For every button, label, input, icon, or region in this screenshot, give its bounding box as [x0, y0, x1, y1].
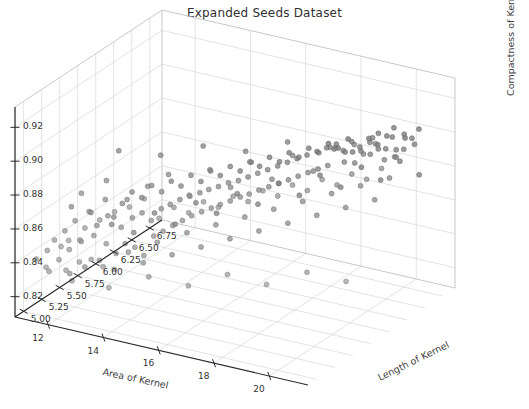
- scatter-point: [368, 152, 373, 157]
- scatter-point: [269, 177, 274, 182]
- figure-canvas: Expanded Seeds Dataset 12141618205.005.2…: [0, 0, 529, 409]
- z-tick-label-0: 0.82: [23, 291, 43, 301]
- scatter-point: [255, 171, 260, 176]
- scatter-point: [105, 213, 110, 218]
- scatter-point: [350, 149, 355, 154]
- scatter-point: [130, 189, 135, 194]
- scatter-point: [238, 168, 243, 173]
- scatter-point: [109, 222, 114, 227]
- y-tick-label-7: 6.75: [157, 231, 177, 241]
- scatter-point: [390, 135, 395, 140]
- scatter-point: [300, 199, 305, 204]
- scatter-point: [170, 252, 175, 257]
- scatter-point: [77, 238, 82, 243]
- y-tick-label-3: 5.75: [85, 279, 105, 289]
- scatter-point: [394, 147, 399, 152]
- scatter-point: [306, 170, 311, 175]
- scatter-point: [384, 133, 389, 138]
- scatter-point: [306, 146, 311, 151]
- scatter-point: [159, 206, 164, 211]
- scatter-point: [225, 272, 230, 277]
- scatter-point: [316, 150, 321, 155]
- scatter-point: [82, 265, 87, 270]
- scatter-point: [379, 166, 384, 171]
- scatter-point: [79, 191, 84, 196]
- x-tick-label-0: 12: [32, 333, 43, 343]
- scatter-point: [247, 159, 252, 164]
- x-tick-label-3: 18: [198, 371, 209, 381]
- scatter-point: [151, 234, 156, 239]
- scatter-point: [382, 157, 387, 162]
- scatter-point: [401, 147, 406, 152]
- scatter-point: [214, 211, 219, 216]
- scatter-point: [189, 213, 194, 218]
- scatter-point: [193, 200, 198, 205]
- scatter-point: [208, 169, 213, 174]
- scatter-point: [264, 282, 269, 287]
- scatter-point: [247, 192, 252, 197]
- scatter-point: [246, 174, 251, 179]
- scatter-point: [305, 153, 310, 158]
- scatter-point: [213, 222, 218, 227]
- scatter-point: [285, 140, 290, 145]
- scatter-point: [271, 207, 276, 212]
- scatter-point: [242, 215, 247, 220]
- scatter-point: [235, 191, 240, 196]
- scatter-point: [297, 193, 302, 198]
- scatter-point: [346, 137, 351, 142]
- z-axis-label: Compactness of Kernel: [505, 0, 516, 96]
- scatter-point: [218, 173, 223, 178]
- scatter-point: [103, 197, 108, 202]
- scatter-point: [383, 146, 388, 151]
- scatter-point: [256, 188, 261, 193]
- scatter-point: [47, 269, 52, 274]
- scatter-point: [267, 155, 272, 160]
- scatter-point: [357, 145, 362, 150]
- scatter-point: [73, 218, 78, 223]
- scatter-point: [59, 244, 64, 249]
- scatter-point: [329, 191, 334, 196]
- z-tick-label-5: 0.92: [23, 121, 43, 131]
- x-tick-label-1: 14: [87, 346, 98, 356]
- scatter-point: [216, 184, 221, 189]
- scatter-point: [236, 178, 241, 183]
- scatter-point: [403, 136, 408, 141]
- scatter-point: [375, 142, 380, 147]
- scatter-point: [304, 270, 309, 275]
- scatter-point: [157, 216, 162, 221]
- scatter-point: [52, 238, 57, 243]
- scatter-point: [201, 144, 206, 149]
- scatter-point: [397, 159, 402, 164]
- scatter-point: [69, 204, 74, 209]
- scatter-point: [180, 218, 185, 223]
- scatter-point: [140, 210, 145, 215]
- scatter-point: [149, 218, 154, 223]
- scatter-point: [141, 253, 146, 258]
- x-tick-label-2: 16: [143, 358, 154, 368]
- scatter-point: [296, 174, 301, 179]
- scatter-point: [116, 148, 121, 153]
- scatter-point: [228, 198, 233, 203]
- scatter-point: [82, 226, 87, 231]
- scatter-point: [94, 223, 99, 228]
- scatter-point: [111, 215, 116, 220]
- scatter-point: [349, 171, 354, 176]
- scatter-point: [316, 166, 321, 171]
- scatter-point: [139, 195, 144, 200]
- z-tick-label-3: 0.88: [23, 189, 43, 199]
- scatter-point: [45, 248, 50, 253]
- scatter-point: [141, 260, 146, 265]
- scatter-point: [173, 222, 178, 227]
- scatter-point: [412, 142, 417, 147]
- scatter-point: [265, 167, 270, 172]
- z-tick-label-1: 0.84: [23, 257, 43, 267]
- z-tick-label-2: 0.86: [23, 223, 43, 233]
- scatter-point: [146, 274, 151, 279]
- scatter-point: [119, 225, 124, 230]
- scatter-point: [318, 173, 323, 178]
- scatter-point: [342, 160, 347, 165]
- scatter-point: [67, 247, 72, 252]
- scatter-point: [417, 172, 422, 177]
- scatter-point: [277, 159, 282, 164]
- scatter-point: [372, 197, 377, 202]
